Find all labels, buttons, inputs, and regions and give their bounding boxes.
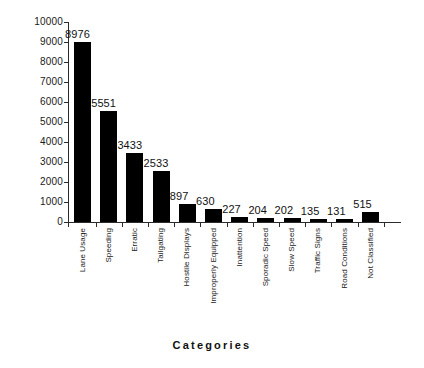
y-axis-tick-label: 10000 bbox=[3, 17, 63, 27]
bar-value-label: 3433 bbox=[117, 140, 142, 151]
bar bbox=[336, 219, 353, 222]
y-axis-tick-label: 3000 bbox=[3, 157, 63, 167]
x-axis-category-label: Erratic bbox=[128, 228, 142, 338]
y-axis-line bbox=[68, 22, 69, 223]
bar-value-label: 5551 bbox=[91, 98, 116, 109]
y-axis-tick-label: 6000 bbox=[3, 97, 63, 107]
x-axis-tick-mark bbox=[68, 223, 69, 227]
bar bbox=[100, 111, 117, 222]
x-axis-category-label: Improperly Equipped bbox=[207, 228, 221, 338]
x-axis-title: Categories bbox=[0, 339, 424, 351]
x-axis-tick-mark bbox=[384, 223, 385, 227]
x-axis-category-label: Tailgating bbox=[154, 228, 168, 338]
x-axis-category-label-text: Road Conditions bbox=[341, 228, 349, 289]
y-axis-tick-label: 7000 bbox=[3, 77, 63, 87]
bar bbox=[179, 204, 196, 222]
bar bbox=[205, 209, 222, 222]
x-axis-tick-mark bbox=[200, 223, 201, 227]
y-axis-tick-label: 1000 bbox=[3, 197, 63, 207]
y-axis-tick-label: 4000 bbox=[3, 137, 63, 147]
x-axis-category-label: Lane Usage bbox=[76, 228, 90, 338]
bar-value-label: 897 bbox=[170, 191, 189, 202]
x-axis-category-label-text: Sporadic Speed bbox=[262, 228, 270, 286]
bar-value-label: 630 bbox=[196, 196, 215, 207]
y-axis-tick-label: 2000 bbox=[3, 177, 63, 187]
bar-value-label: 227 bbox=[222, 204, 241, 215]
x-axis-category-label-text: Inattention bbox=[236, 228, 244, 266]
x-axis-category-label: Slow Speed bbox=[285, 228, 299, 338]
x-axis-category-label-text: Erratic bbox=[131, 228, 139, 252]
x-axis-category-label: Sporadic Speed bbox=[259, 228, 273, 338]
x-axis-tick-mark bbox=[122, 223, 123, 227]
bar bbox=[126, 153, 143, 222]
bar bbox=[74, 42, 91, 222]
bar bbox=[231, 217, 248, 222]
bar-value-label: 204 bbox=[248, 205, 267, 216]
x-axis-tick-mark bbox=[96, 223, 97, 227]
x-axis-category-label: Not Classified bbox=[364, 228, 378, 338]
x-axis-category-label-text: Slow Speed bbox=[288, 228, 296, 272]
bar bbox=[153, 171, 170, 222]
bar-value-label: 2533 bbox=[144, 158, 169, 169]
bar-chart: 1000090008000700060005000400030002000100… bbox=[0, 0, 424, 368]
x-axis-category-label: Traffic Signs bbox=[311, 228, 325, 338]
y-axis-tick-label: 9000 bbox=[3, 37, 63, 47]
x-axis-tick-mark bbox=[148, 223, 149, 227]
x-axis-tick-mark bbox=[358, 223, 359, 227]
y-axis-tick-label: 0 bbox=[3, 217, 63, 227]
bar bbox=[257, 218, 274, 222]
x-axis-category-label: Hostile Displays bbox=[180, 228, 194, 338]
x-axis-line bbox=[68, 222, 401, 223]
x-axis-category-label: Road Conditions bbox=[338, 228, 352, 338]
x-axis-category-label-text: Not Classified bbox=[367, 228, 375, 279]
x-axis-category-label: Inattention bbox=[233, 228, 247, 338]
x-axis-category-label-text: Hostile Displays bbox=[183, 228, 191, 287]
x-axis-category-label-text: Traffic Signs bbox=[314, 228, 322, 273]
y-axis-tick-label: 8000 bbox=[3, 57, 63, 67]
bar-value-label: 131 bbox=[327, 206, 346, 217]
x-axis-tick-mark bbox=[227, 223, 228, 227]
bar bbox=[284, 218, 301, 222]
bar-value-label: 135 bbox=[301, 206, 320, 217]
bar bbox=[310, 219, 327, 222]
x-axis-category-label-text: Improperly Equipped bbox=[210, 228, 218, 304]
y-axis-tick-label: 5000 bbox=[3, 117, 63, 127]
x-axis-tick-mark bbox=[279, 223, 280, 227]
x-axis-tick-mark bbox=[305, 223, 306, 227]
x-axis-category-label: Speeding bbox=[102, 228, 116, 338]
x-axis-category-label-text: Lane Usage bbox=[79, 228, 87, 272]
bar-value-label: 202 bbox=[275, 205, 294, 216]
bar-value-label: 515 bbox=[353, 199, 372, 210]
x-axis-category-label-text: Tailgating bbox=[157, 228, 165, 263]
bar bbox=[362, 212, 379, 222]
bar-value-label: 8976 bbox=[65, 29, 90, 40]
x-axis-tick-mark bbox=[174, 223, 175, 227]
x-axis-tick-mark bbox=[253, 223, 254, 227]
x-axis-tick-mark bbox=[331, 223, 332, 227]
x-axis-category-label-text: Speeding bbox=[105, 228, 113, 263]
